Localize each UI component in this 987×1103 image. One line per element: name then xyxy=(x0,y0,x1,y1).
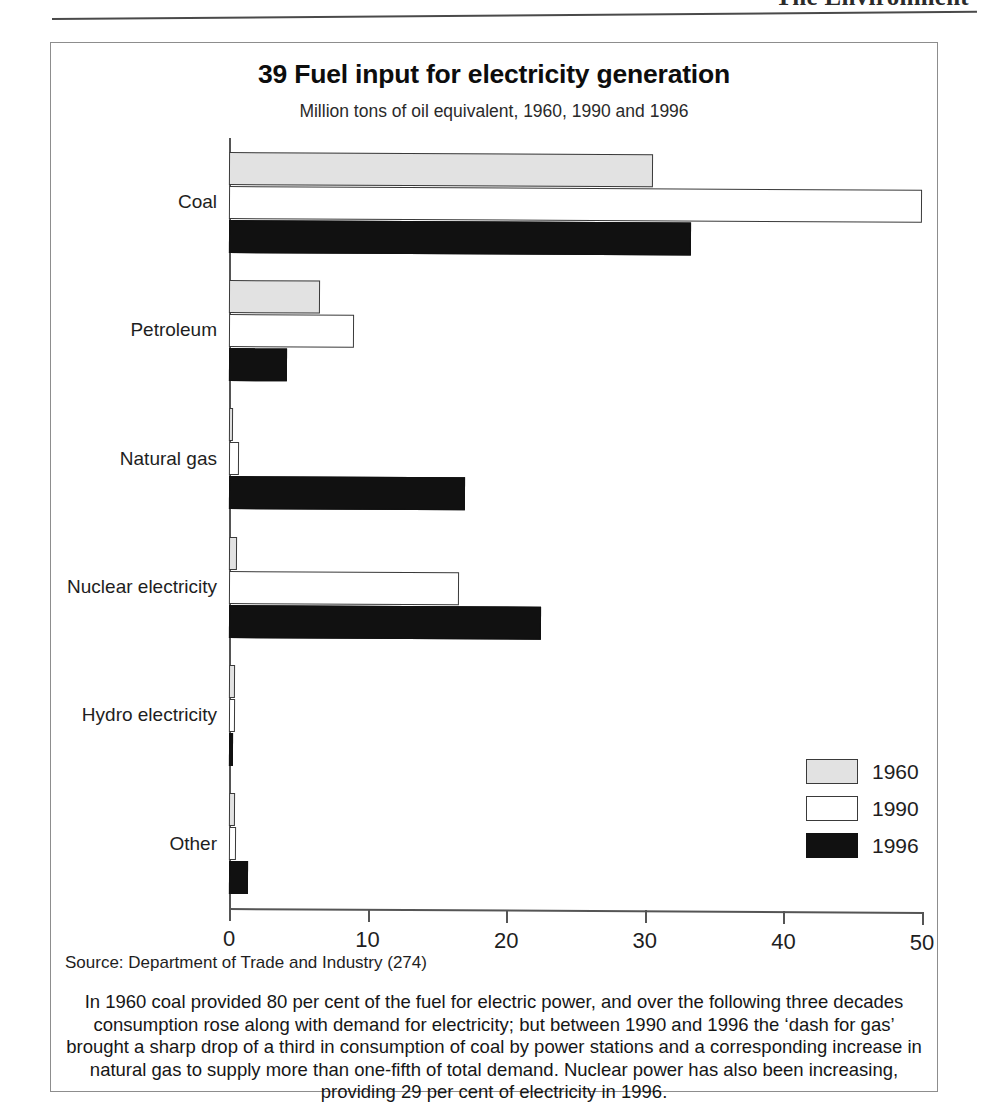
bar-group: Natural gas xyxy=(229,395,922,523)
category-label: Hydro electricity xyxy=(82,704,217,726)
x-tick-label: 0 xyxy=(223,926,235,952)
x-tick xyxy=(922,912,924,925)
legend-item-1990: 1990 xyxy=(806,790,919,827)
bar-natural-gas-1990 xyxy=(229,442,239,475)
legend-item-1996: 1996 xyxy=(806,827,919,864)
x-tick xyxy=(645,910,647,923)
legend-swatch-1996 xyxy=(806,833,858,858)
x-tick xyxy=(368,909,370,922)
x-tick-label: 40 xyxy=(771,929,795,955)
bar-nuclear-electricity-1960 xyxy=(229,537,237,570)
chart-subtitle: Million tons of oil equivalent, 1960, 19… xyxy=(51,101,937,122)
bar-hydro-electricity-1996 xyxy=(229,733,233,766)
category-label: Coal xyxy=(178,191,217,213)
legend-swatch-1990 xyxy=(806,796,858,821)
bar-petroleum-1960 xyxy=(229,280,321,314)
x-tick-label: 50 xyxy=(910,930,934,956)
bar-other-1996 xyxy=(229,861,249,894)
bar-natural-gas-1960 xyxy=(229,408,233,441)
bar-coal-1990 xyxy=(229,186,922,223)
legend-swatch-1960 xyxy=(806,759,858,784)
x-tick xyxy=(783,911,785,924)
bar-coal-1960 xyxy=(229,152,653,187)
figure-panel: 39 Fuel input for electricity generation… xyxy=(50,42,938,1092)
bar-group: Nuclear electricity xyxy=(229,523,922,651)
bar-nuclear-electricity-1996 xyxy=(229,605,541,640)
bar-other-1960 xyxy=(229,793,235,826)
bar-hydro-electricity-1960 xyxy=(229,665,235,698)
running-head-text: The Environment xyxy=(775,0,969,11)
bar-other-1990 xyxy=(229,827,236,860)
bar-hydro-electricity-1990 xyxy=(229,699,235,732)
legend-item-1960: 1960 xyxy=(806,753,919,790)
legend-label-1996: 1996 xyxy=(872,834,919,858)
source-line: Source: Department of Trade and Industry… xyxy=(65,953,427,973)
bar-natural-gas-1996 xyxy=(229,476,465,510)
bar-group: Petroleum xyxy=(229,266,922,394)
category-label: Nuclear electricity xyxy=(67,576,217,598)
x-axis-line xyxy=(229,908,924,914)
chart-title: 39 Fuel input for electricity generation xyxy=(51,59,937,90)
x-tick-label: 30 xyxy=(633,928,657,954)
bar-petroleum-1990 xyxy=(229,314,354,348)
x-tick-label: 20 xyxy=(494,928,518,954)
chart-legend: 196019901996 xyxy=(806,753,919,864)
bar-petroleum-1996 xyxy=(229,348,287,381)
bar-coal-1996 xyxy=(229,220,691,256)
category-label: Natural gas xyxy=(120,448,217,470)
x-tick xyxy=(229,908,231,921)
category-label: Other xyxy=(169,833,217,855)
x-tick-label: 10 xyxy=(355,927,379,953)
bar-group: Coal xyxy=(229,138,922,266)
legend-label-1990: 1990 xyxy=(872,797,919,821)
x-tick xyxy=(506,910,508,923)
figure-caption: In 1960 coal provided 80 per cent of the… xyxy=(65,991,923,1103)
bar-nuclear-electricity-1990 xyxy=(229,571,459,605)
category-label: Petroleum xyxy=(130,319,217,341)
legend-label-1960: 1960 xyxy=(872,760,919,784)
